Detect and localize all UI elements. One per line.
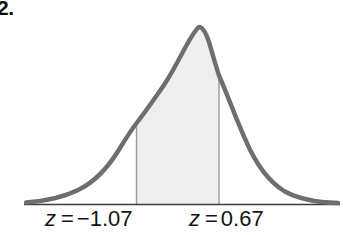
- upper-bound-equals: =: [202, 206, 221, 231]
- lower-bound-variable: z: [45, 206, 58, 231]
- upper-bound-value: 0.67: [221, 206, 264, 231]
- lower-bound-value: −1.07: [77, 206, 133, 231]
- upper-bound-variable: z: [189, 206, 202, 231]
- lower-bound-equals: =: [58, 206, 77, 231]
- lower-bound-label: z=−1.07: [45, 208, 133, 230]
- normal-curve-figure: 2. z=−1.07 z=0.67: [0, 0, 343, 235]
- upper-bound-label: z=0.67: [189, 208, 264, 230]
- normal-distribution-plot: [0, 0, 343, 235]
- shaded-area-region: [137, 27, 219, 204]
